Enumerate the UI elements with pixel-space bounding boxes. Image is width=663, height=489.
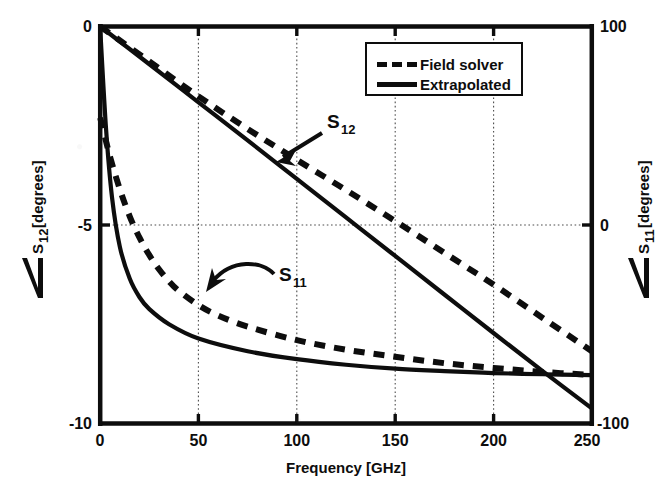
ytick-label-right-0: 0 (600, 217, 609, 234)
legend: Field solver Extrapolated (366, 43, 522, 95)
xtick-label-0: 0 (96, 432, 105, 449)
figure-canvas: 0 50 100 150 200 250 0 -5 -10 100 0 -100… (0, 0, 663, 489)
ytick-label-left-minus10: -10 (69, 415, 92, 432)
annotation-s12-label: S (327, 111, 340, 132)
legend-label-extrapolated: Extrapolated (420, 76, 511, 93)
y-axis-title-right-subscript: 11 (642, 229, 657, 243)
ytick-label-right-100: 100 (600, 18, 627, 35)
x-axis-title: Frequency [GHz] (286, 459, 406, 476)
xtick-label-150: 150 (382, 432, 409, 449)
ytick-label-left-0: 0 (83, 18, 92, 35)
ytick-label-left-minus5: -5 (78, 217, 92, 234)
xtick-label-250: 250 (574, 432, 601, 449)
y-axis-title-left-unit: [degrees] (29, 160, 46, 228)
xtick-label-100: 100 (283, 432, 310, 449)
legend-swatch-dashed (377, 62, 417, 67)
annotation-s11-label: S (279, 264, 292, 285)
xtick-label-200: 200 (480, 432, 507, 449)
annotation-s12-subscript: 12 (341, 122, 355, 137)
xtick-label-50: 50 (190, 432, 208, 449)
y-axis-title-left-symbol: S (29, 244, 46, 254)
y-axis-title-right-symbol: S (635, 244, 652, 254)
ytick-label-right-minus100: -100 (597, 415, 629, 432)
annotation-s11-subscript: 11 (293, 275, 307, 290)
legend-swatch-solid (377, 82, 417, 87)
y-axis-title-right-unit: [degrees] (635, 160, 652, 228)
y-axis-title-left-subscript: 12 (36, 229, 51, 243)
legend-label-field-solver: Field solver (420, 56, 504, 73)
